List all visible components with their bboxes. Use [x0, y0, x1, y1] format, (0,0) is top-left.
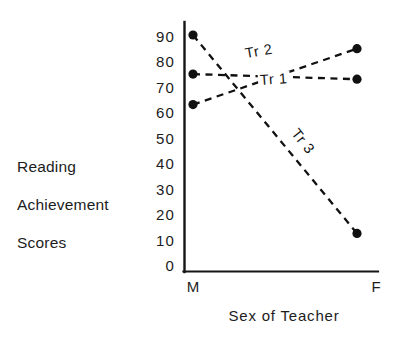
chart-figure: Reading Achievement Scores 90 80 70 60 5… [0, 0, 394, 340]
data-point-tr-1-m [188, 70, 197, 79]
plot-area [0, 0, 394, 340]
data-point-tr-1-f [352, 75, 361, 84]
series-label-tr-1: Tr 1 [258, 71, 291, 88]
data-point-tr-3-f [352, 229, 361, 238]
data-point-tr-3-m [188, 30, 197, 39]
data-point-tr-2-m [188, 100, 197, 109]
data-point-tr-2-f [352, 44, 361, 53]
series-line-tr-3 [193, 35, 357, 233]
